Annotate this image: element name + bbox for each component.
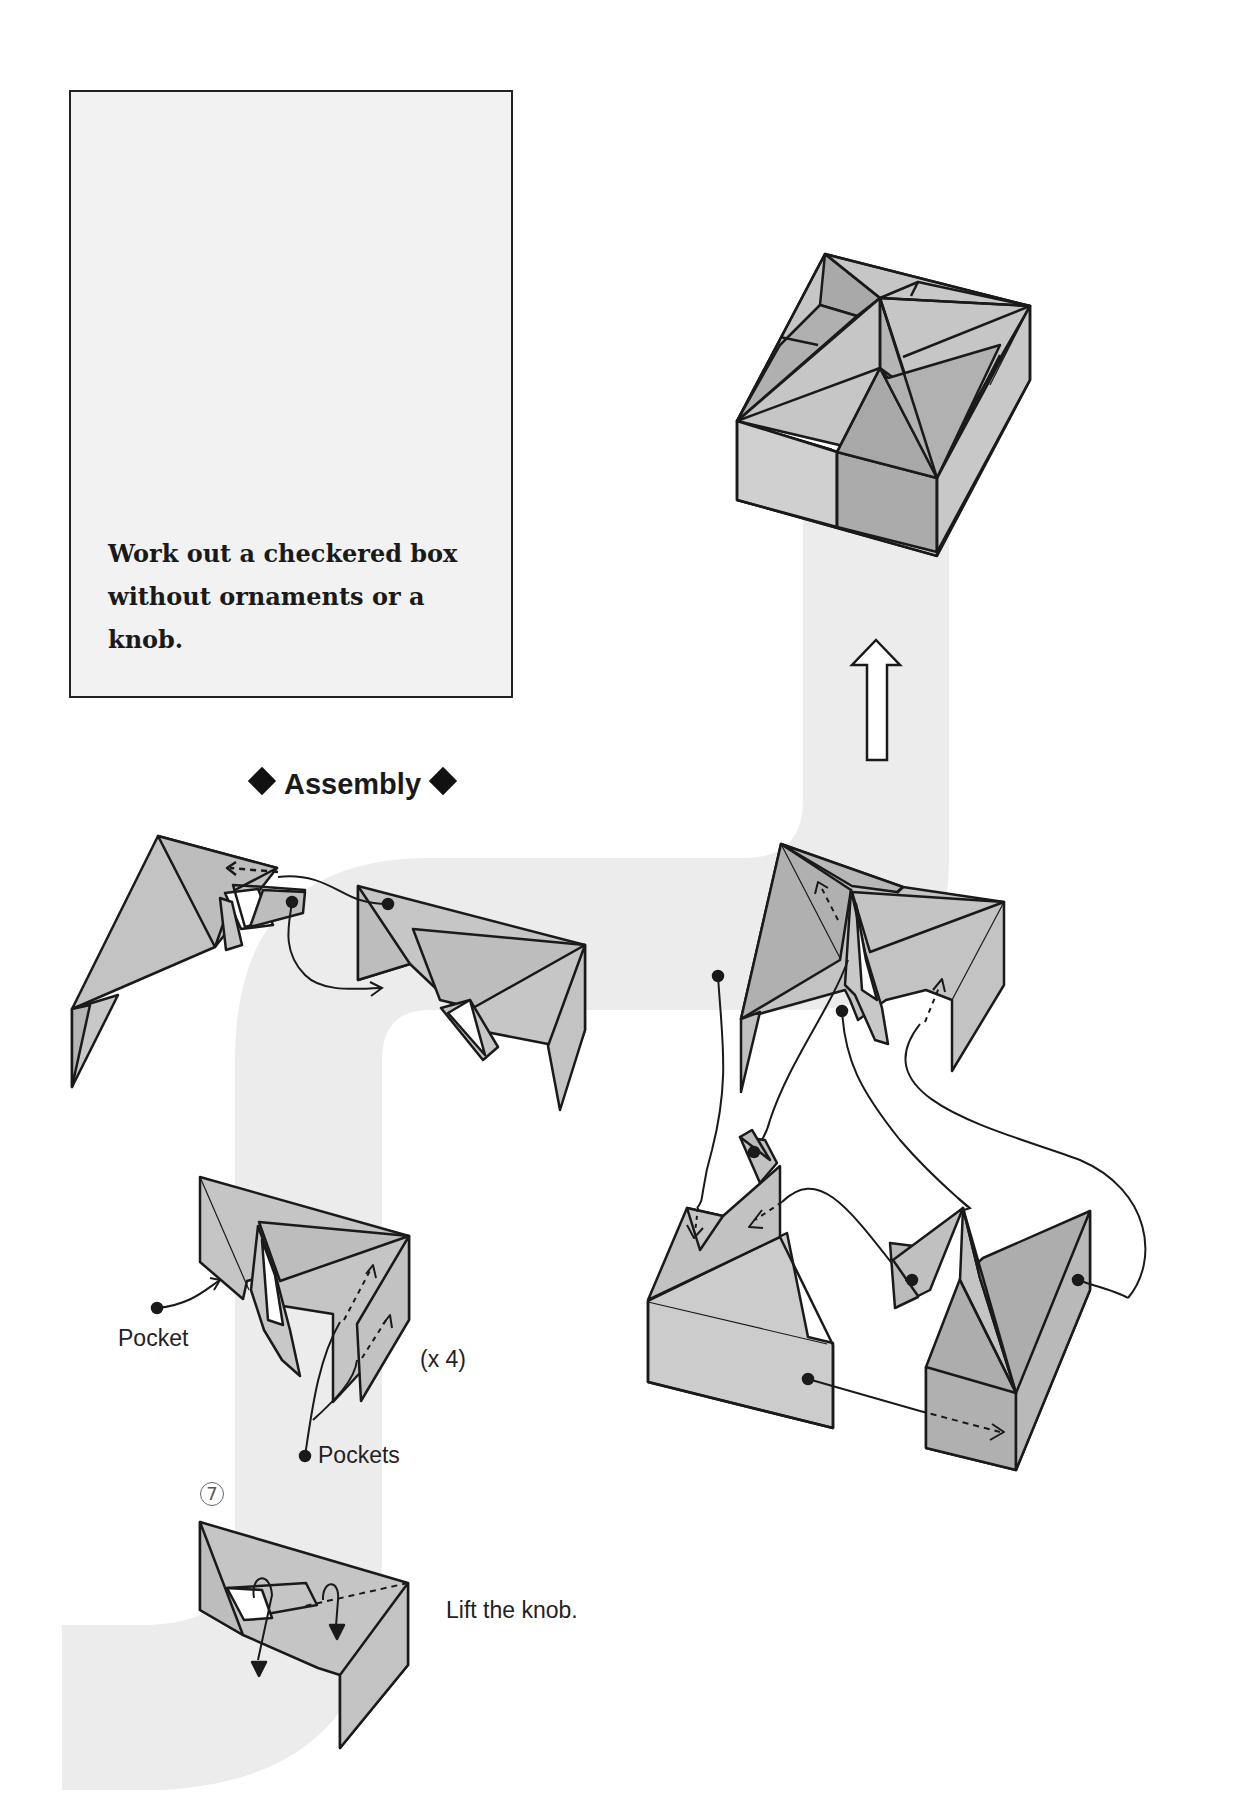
pocket-label: Pocket	[118, 1325, 188, 1352]
assembly-heading: Assembly	[240, 768, 465, 801]
assembly-right-unit-right	[808, 1208, 1128, 1470]
step-number-badge: 7	[200, 1482, 224, 1506]
assembly-right-unit-left	[648, 1130, 833, 1428]
diamond-icon	[248, 767, 276, 795]
finished-box-figure	[737, 254, 1030, 556]
pockets-label: Pockets	[318, 1442, 400, 1469]
lift-knob-instruction: Lift the knob.	[446, 1597, 578, 1624]
diamond-icon	[429, 767, 457, 795]
repeat-label: (x 4)	[420, 1346, 466, 1373]
assembly-title: Assembly	[284, 768, 421, 800]
intro-text: Work out a checkered box without ornamen…	[108, 532, 488, 661]
